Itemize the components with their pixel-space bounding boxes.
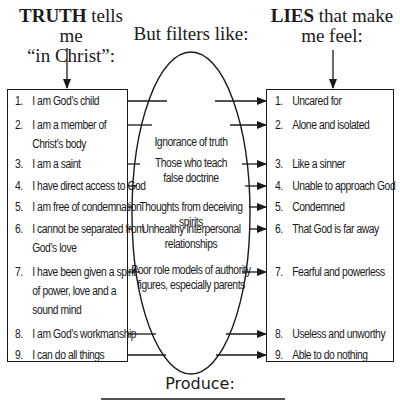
filter-line: Poor role models of authority	[131, 263, 250, 277]
lie-item-number: 9.	[275, 346, 292, 365]
truth-item-line: I am a member of	[32, 118, 106, 132]
lie-item-number: 1.	[275, 92, 292, 111]
filter-line: Those who teach	[155, 156, 227, 170]
lies-list-box: 1.Uncared for 2.Alone and isolated 3.Lik…	[266, 89, 394, 362]
truth-item-line: of power, love and a	[32, 284, 116, 298]
truth-item-line: Christ’s body	[32, 137, 86, 151]
filter-item: Poor role models of authorityfigures, es…	[130, 263, 252, 293]
lie-item: 9.Able to do nothing	[275, 346, 368, 365]
lie-item: 7.Fearful and powerless	[275, 263, 385, 282]
truth-item-text: I cannot be separated fromGod’s love	[32, 220, 144, 258]
lie-item-text: Unable to approach God	[292, 177, 395, 196]
lies-heading: LIES that make me feel:	[268, 6, 396, 46]
truth-heading-line2: “in Christ”:	[10, 46, 132, 66]
lie-item: 4.Unable to approach God	[275, 177, 395, 196]
lie-item-number: 4.	[275, 177, 292, 196]
truth-item-number: 7.	[15, 263, 32, 282]
lie-item-text: Condemned	[292, 198, 344, 217]
truth-item: 7.I have been given a spiritof power, lo…	[15, 263, 136, 320]
truth-item: 2.I am a member ofChrist’s body	[15, 116, 106, 154]
lie-item-text: Able to do nothing	[292, 346, 367, 365]
truth-item-line: God’s love	[32, 241, 76, 255]
truth-item: 1.I am God’s child	[15, 92, 99, 111]
filter-item: Ignorance of truth	[130, 135, 252, 150]
filter-item: Unhealthy interpersonalrelationships	[130, 222, 252, 252]
truth-item-text: I am God’s workmanship	[32, 325, 136, 344]
truth-item: 6.I cannot be separated fromGod’s love	[15, 220, 144, 258]
lie-item: 8.Useless and unworthy	[275, 325, 385, 344]
truth-item-number: 5.	[15, 198, 32, 217]
filter-line: Unhealthy interpersonal	[141, 222, 240, 236]
truth-item-text: I am God’s child	[32, 92, 99, 111]
lies-heading-rest: that make	[314, 5, 393, 26]
truth-item-number: 8.	[15, 325, 32, 344]
truth-item-text: I am a saint	[32, 155, 80, 174]
truth-item-number: 9.	[15, 346, 32, 365]
truth-item: 8.I am God’s workmanship	[15, 325, 136, 344]
filter-line: false doctrine	[163, 171, 218, 185]
truth-item-text: I have direct access to God	[32, 177, 145, 196]
produce-label: Produce:	[0, 374, 400, 393]
truth-item-number: 6.	[15, 220, 32, 239]
lie-item: 1.Uncared for	[275, 92, 341, 111]
truth-item-text: I can do all things	[32, 346, 104, 365]
truth-item-line: I cannot be separated from	[32, 222, 144, 236]
lie-item: 3.Like a sinner	[275, 155, 345, 174]
truth-item-number: 4.	[15, 177, 32, 196]
lie-item-text: That God is far away	[292, 220, 379, 239]
lie-item-text: Fearful and powerless	[292, 263, 385, 282]
lie-item-number: 5.	[275, 198, 292, 217]
truth-item: 4.I have direct access to God	[15, 177, 146, 196]
truth-list-box: 1.I am God’s child 2.I am a member ofChr…	[7, 89, 128, 362]
lie-item: 2.Alone and isolated	[275, 116, 369, 135]
truth-item-line: I have been given a spirit	[32, 265, 136, 279]
filter-line: relationships	[165, 237, 217, 251]
lies-heading-line2: me feel:	[268, 26, 396, 46]
truth-item-number: 2.	[15, 116, 32, 135]
lie-item: 6.That God is far away	[275, 220, 379, 239]
truth-heading-bold: TRUTH	[19, 5, 87, 26]
lie-item-number: 2.	[275, 116, 292, 135]
lie-item-number: 3.	[275, 155, 292, 174]
truth-item: 9.I can do all things	[15, 346, 104, 365]
truth-item-text: I am a member ofChrist’s body	[32, 116, 106, 154]
truth-item-text: I am free of condemnation	[32, 198, 141, 217]
truth-heading: TRUTH tells me “in Christ”:	[10, 6, 132, 66]
lie-item-number: 7.	[275, 263, 292, 282]
lie-item-text: Alone and isolated	[292, 116, 369, 135]
lie-item-text: Like a sinner	[292, 155, 345, 174]
truth-item-number: 1.	[15, 92, 32, 111]
lie-item-number: 8.	[275, 325, 292, 344]
truth-item-line: sound mind	[32, 303, 81, 317]
truth-item: 5.I am free of condemnation	[15, 198, 141, 217]
lie-item: 5.Condemned	[275, 198, 345, 217]
truth-item-text: I have been given a spiritof power, love…	[32, 263, 136, 320]
filter-line: Ignorance of truth	[154, 135, 227, 149]
filters-heading: But filters like:	[120, 24, 262, 44]
filter-line: figures, especially parents	[137, 278, 245, 292]
filter-item: Those who teachfalse doctrine	[130, 156, 252, 186]
lie-item-text: Useless and unworthy	[292, 325, 385, 344]
lie-item-text: Uncared for	[292, 92, 341, 111]
truth-item: 3.I am a saint	[15, 155, 80, 174]
lies-heading-bold: LIES	[271, 5, 314, 26]
truth-item-number: 3.	[15, 155, 32, 174]
lie-item-number: 6.	[275, 220, 292, 239]
